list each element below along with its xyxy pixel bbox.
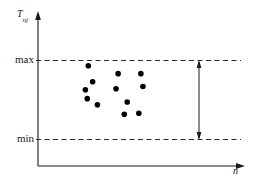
scatter-point xyxy=(113,86,119,92)
scatter-point xyxy=(115,71,121,77)
plot-canvas xyxy=(0,0,258,189)
scatter-point xyxy=(138,71,144,77)
y-axis-label: Tnj xyxy=(17,9,28,22)
scatter-point xyxy=(90,79,96,85)
scatter-point xyxy=(95,102,101,108)
range-arrow xyxy=(197,60,202,140)
scatter-point xyxy=(122,112,128,118)
scatter-point xyxy=(84,96,90,102)
scatter-points-group xyxy=(83,63,146,117)
range-arrow-head-down xyxy=(197,132,202,140)
y-axis-label-text: T xyxy=(17,8,23,19)
scatter-plot-figure: Tnj n max min xyxy=(0,0,258,189)
scatter-point xyxy=(136,111,142,117)
scatter-point xyxy=(140,84,146,90)
range-arrow-head-up xyxy=(197,60,202,68)
y-axis-label-subscript: nj xyxy=(23,16,28,24)
x-axis-label: n xyxy=(233,166,238,176)
scatter-point xyxy=(83,87,89,93)
y-axis-arrowhead xyxy=(35,11,41,20)
y-tick-label-min: min xyxy=(0,133,34,144)
y-tick-label-max: max xyxy=(0,54,34,65)
scatter-point xyxy=(124,99,130,105)
scatter-point xyxy=(86,63,92,69)
